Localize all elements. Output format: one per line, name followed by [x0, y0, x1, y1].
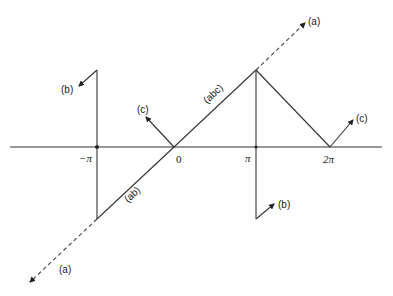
descending-line: [256, 70, 330, 147]
label-c-left: (c): [137, 104, 149, 115]
dashed-arrow-a-top: [256, 23, 305, 70]
tick-label-pi: π: [245, 152, 251, 164]
diagonal-abc: [174, 70, 256, 147]
arrow-c-right: [330, 120, 353, 147]
label-a-bottom: (a): [59, 264, 71, 275]
tick-label-neg-pi: −π: [79, 152, 92, 164]
phase-diagram: −π 0 π 2π (a) (a) (b) (b) (c) (c) (ab) (…: [0, 0, 393, 296]
label-b-bottom: (b): [278, 199, 290, 210]
arrow-c-left: [146, 117, 174, 147]
arrow-b-top: [79, 70, 97, 86]
label-a-top: (a): [308, 16, 320, 27]
tick-label-zero: 0: [176, 153, 182, 165]
label-c-right: (c): [356, 113, 368, 124]
tick-label-two-pi: 2π: [323, 153, 335, 165]
label-ab: (ab): [122, 184, 143, 204]
label-b-top: (b): [61, 84, 73, 95]
arrow-b-bottom: [256, 204, 274, 219]
diagonal-ab: [97, 147, 174, 219]
